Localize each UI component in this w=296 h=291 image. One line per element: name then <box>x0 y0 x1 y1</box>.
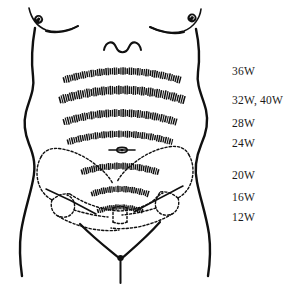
hatch-tick <box>92 166 93 173</box>
hatch-tick <box>137 164 138 170</box>
hatch-tick <box>91 111 92 119</box>
hatch-tick <box>100 110 101 118</box>
hatch-tick <box>137 188 138 194</box>
hatch-tick <box>145 190 147 196</box>
hatch-tick <box>67 117 69 125</box>
hatch-tick <box>81 170 82 175</box>
hatch-tick <box>108 206 109 211</box>
hatch-tick <box>148 133 149 139</box>
hatch-tick <box>97 189 98 195</box>
hatch-tick <box>80 72 81 78</box>
hatch-tick <box>84 113 85 121</box>
week-label-w36: 36W <box>232 66 255 78</box>
hatch-tick <box>104 131 105 138</box>
hatch-tick <box>71 137 73 144</box>
week-label-w32_40: 32W, 40W <box>232 95 283 107</box>
hatch-tick <box>148 112 149 119</box>
hatch-tick <box>93 133 94 139</box>
hatch-tick <box>128 187 129 193</box>
hatch-tick <box>159 114 160 120</box>
hatch-tick <box>154 70 155 77</box>
hatch-tick <box>169 92 170 99</box>
hatch-tick <box>160 72 161 79</box>
hatch-tick <box>173 93 175 102</box>
hatch-tick <box>147 166 148 173</box>
band-20w <box>81 163 158 175</box>
hatch-tick <box>101 188 102 194</box>
hatch-tick <box>152 70 153 77</box>
hatch-tick <box>158 72 159 78</box>
hatch-tick <box>102 110 103 117</box>
hatch-tick <box>80 135 81 142</box>
hatch-tick <box>149 167 150 173</box>
hatch-tick <box>152 134 153 141</box>
hatch-tick <box>146 88 147 95</box>
hatch-tick <box>165 116 166 123</box>
hatch-tick <box>156 71 157 78</box>
hatch-tick <box>106 206 107 210</box>
hatch-tick <box>78 136 79 143</box>
hatch-tick <box>134 187 135 193</box>
hatch-tick <box>142 111 143 117</box>
hatch-tick <box>89 133 90 140</box>
hatch-tick <box>63 77 64 82</box>
hatch-tick <box>132 205 133 210</box>
hatch-tick <box>102 132 103 139</box>
hatch-tick <box>83 90 84 97</box>
hatch-tick <box>156 89 157 98</box>
hatch-tick <box>135 86 136 95</box>
hatch-tick <box>155 168 157 175</box>
hatch-tick <box>80 90 82 99</box>
hatch-tick <box>142 87 143 96</box>
hatch-tick <box>144 132 145 139</box>
hatch-tick <box>131 163 132 170</box>
hatch-tick <box>179 77 181 84</box>
band-32w-40w <box>59 86 185 104</box>
hatch-tick <box>95 70 96 76</box>
hatch-tick <box>99 189 100 194</box>
hatch-tick <box>87 71 88 77</box>
hatch-tick <box>90 167 91 172</box>
hatch-tick <box>139 164 140 171</box>
hatch-tick <box>85 71 86 78</box>
hatch-tick <box>159 135 160 142</box>
hatch-tick <box>103 187 104 193</box>
hatch-tick <box>169 116 171 124</box>
hatch-tick <box>87 113 88 119</box>
hatch-tick <box>87 134 88 141</box>
hatch-tick <box>108 187 109 193</box>
hatch-tick <box>97 209 98 213</box>
hatch-tick <box>104 110 105 116</box>
hatch-tick <box>138 132 139 138</box>
hatch-tick <box>106 68 107 75</box>
hatch-tick <box>110 186 111 192</box>
hatch-tick <box>106 188 107 193</box>
hatch-tick <box>70 93 72 101</box>
hatch-tick <box>177 95 179 101</box>
hatch-tick <box>138 68 139 75</box>
hatch-tick <box>82 113 83 121</box>
hatch-tick <box>65 76 67 83</box>
hatch-tick <box>63 119 65 125</box>
hatch-tick <box>162 72 163 79</box>
hatch-tick <box>76 92 77 100</box>
hatch-tick <box>108 163 109 170</box>
hatch-tick <box>132 187 133 193</box>
hatch-tick <box>160 90 161 98</box>
hatch-tick <box>69 138 71 144</box>
hatch-tick <box>67 75 69 82</box>
hatch-tick <box>74 115 76 123</box>
hatch-tick <box>154 113 155 121</box>
hatch-tick <box>87 89 88 98</box>
hatch-tick <box>102 87 103 96</box>
hatch-tick <box>165 73 166 79</box>
hatch-tick <box>70 117 72 124</box>
hatch-tick <box>147 191 149 197</box>
hatch-tick <box>144 111 145 118</box>
hatch-tick <box>143 190 144 195</box>
week-label-w24: 24W <box>232 138 255 150</box>
hatch-tick <box>141 165 142 171</box>
hatch-tick <box>82 71 83 78</box>
hatch-tick <box>151 167 152 173</box>
hatch-tick <box>104 86 105 95</box>
